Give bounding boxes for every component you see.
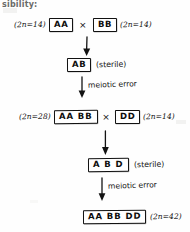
- hybrid-row-ab: AB (sterile): [67, 58, 127, 72]
- hybrid-row-abd: A B D (sterile): [88, 158, 164, 172]
- genotype-box-dd[interactable]: DD: [115, 110, 140, 124]
- genotype-box-aa[interactable]: AA: [49, 18, 73, 32]
- cross-symbol-row1: ×: [79, 20, 87, 30]
- cross-row-1: (2n=14) AA × BB (2n=14): [14, 18, 151, 32]
- chromosome-count-left-row3: (2n=28): [19, 112, 51, 121]
- diagram-canvas: sibility: (2n=14) AA × BB (2n=14) AB (st…: [0, 0, 190, 232]
- genotype-box-bb[interactable]: BB: [93, 18, 117, 32]
- genotype-box-abd[interactable]: A B D: [88, 158, 129, 172]
- arrow-down-3: [99, 130, 113, 157]
- page-header-fragment: sibility:: [2, 0, 38, 9]
- chromosome-count-right-row3: (2n=14): [143, 112, 175, 121]
- sterile-note-ab: (sterile): [96, 60, 126, 70]
- arrow-down-1: [80, 36, 94, 58]
- hexaploid-row: AA BB DD (2n=42): [83, 210, 182, 224]
- chromosome-count-right-row1: (2n=14): [120, 20, 152, 29]
- sterile-note-abd: (sterile): [133, 160, 163, 170]
- cross-symbol-row3: ×: [102, 112, 110, 122]
- chromosome-count-row5: (2n=42): [150, 212, 182, 221]
- scan-speckle: [30, 200, 38, 203]
- cross-row-2: (2n=28) AA BB × DD (2n=14): [19, 110, 175, 124]
- scan-speckle: [176, 120, 186, 124]
- genotype-box-aabb[interactable]: AA BB: [54, 110, 98, 124]
- arrow-label-meiotic-error-1: meiotic error: [88, 79, 137, 90]
- genotype-box-ab[interactable]: AB: [67, 58, 91, 72]
- chromosome-count-left-row1: (2n=14): [14, 20, 46, 29]
- genotype-box-aabbdd[interactable]: AA BB DD: [83, 210, 146, 224]
- arrow-label-meiotic-error-2: meiotic error: [108, 180, 157, 191]
